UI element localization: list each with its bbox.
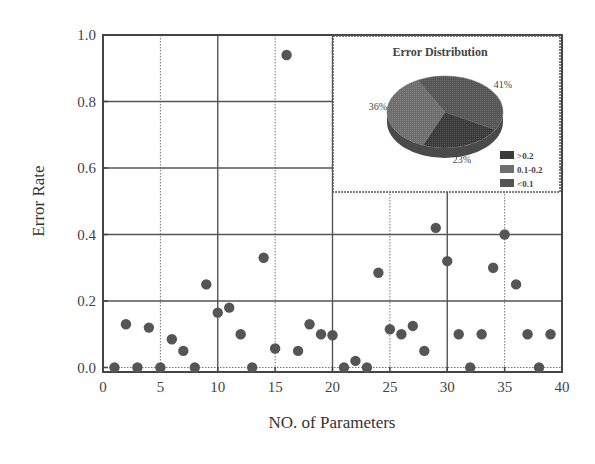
data-point: [270, 343, 280, 353]
data-point: [442, 256, 452, 266]
x-tick-label: 15: [268, 379, 283, 395]
pie: [387, 76, 503, 158]
legend-label: 0.1-0.2: [517, 165, 543, 175]
data-point: [465, 362, 475, 372]
data-point: [408, 321, 418, 331]
x-tick-label: 40: [555, 379, 570, 395]
data-point: [190, 362, 200, 372]
y-tick-label: 0.0: [77, 360, 96, 376]
data-point: [373, 268, 383, 278]
data-point: [499, 229, 509, 239]
data-point: [350, 356, 360, 366]
x-tick-label: 0: [99, 379, 107, 395]
data-point: [339, 362, 349, 372]
y-tick-label: 0.4: [77, 227, 96, 243]
data-point: [534, 362, 544, 372]
data-point: [144, 322, 154, 332]
data-point: [316, 329, 326, 339]
pie-label: 41%: [494, 79, 512, 90]
data-point: [121, 319, 131, 329]
x-tick-label: 25: [382, 379, 397, 395]
inset-title: Error Distribution: [392, 45, 488, 59]
data-point: [132, 362, 142, 372]
x-tick-label: 30: [440, 379, 455, 395]
data-point: [109, 362, 119, 372]
data-point: [476, 329, 486, 339]
data-point: [454, 329, 464, 339]
data-point: [396, 329, 406, 339]
data-point: [511, 279, 521, 289]
data-point: [247, 362, 257, 372]
legend-swatch: [500, 179, 514, 187]
scatter-chart: 0510152025303540 0.00.20.40.60.81.0 NO. …: [0, 0, 595, 464]
legend-swatch: [500, 151, 514, 159]
data-point: [327, 330, 337, 340]
data-point: [431, 223, 441, 233]
data-point: [281, 50, 291, 60]
data-point: [545, 329, 555, 339]
x-axis-title: NO. of Parameters: [269, 413, 396, 432]
x-tick-label: 5: [157, 379, 165, 395]
x-tick-label: 20: [325, 379, 340, 395]
data-point: [419, 346, 429, 356]
legend-swatch: [500, 165, 514, 173]
y-tick-label: 0.8: [77, 94, 96, 110]
inset-pie-chart: Error Distribution 23%36%41% >0.20.1-0.2…: [333, 36, 560, 192]
y-tick-label: 0.2: [77, 293, 96, 309]
y-axis-title: Error Rate: [29, 165, 48, 236]
data-point: [258, 253, 268, 263]
pie-label: 36%: [369, 101, 387, 112]
data-point: [362, 362, 372, 372]
data-point: [385, 324, 395, 334]
y-tick-label: 0.6: [77, 160, 96, 176]
x-tick-label: 35: [497, 379, 512, 395]
x-tick-label: 10: [210, 379, 225, 395]
data-point: [201, 279, 211, 289]
y-tick-label: 1.0: [77, 27, 96, 43]
data-point: [488, 263, 498, 273]
legend-label: <0.1: [517, 179, 534, 189]
pie-label: 23%: [453, 154, 471, 165]
data-point: [236, 329, 246, 339]
data-point: [224, 302, 234, 312]
data-point: [293, 346, 303, 356]
data-point: [304, 319, 314, 329]
data-point: [178, 346, 188, 356]
legend-label: >0.2: [517, 151, 534, 161]
data-point: [213, 307, 223, 317]
data-point: [167, 334, 177, 344]
data-point: [155, 362, 165, 372]
data-point: [522, 329, 532, 339]
